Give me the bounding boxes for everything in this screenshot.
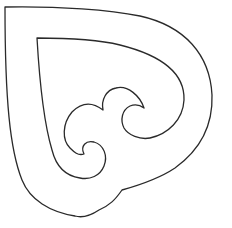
inner-outline-with-spirals (37, 38, 184, 179)
line-art-figure: Line-art outline of a heart-like shape w… (0, 0, 232, 228)
